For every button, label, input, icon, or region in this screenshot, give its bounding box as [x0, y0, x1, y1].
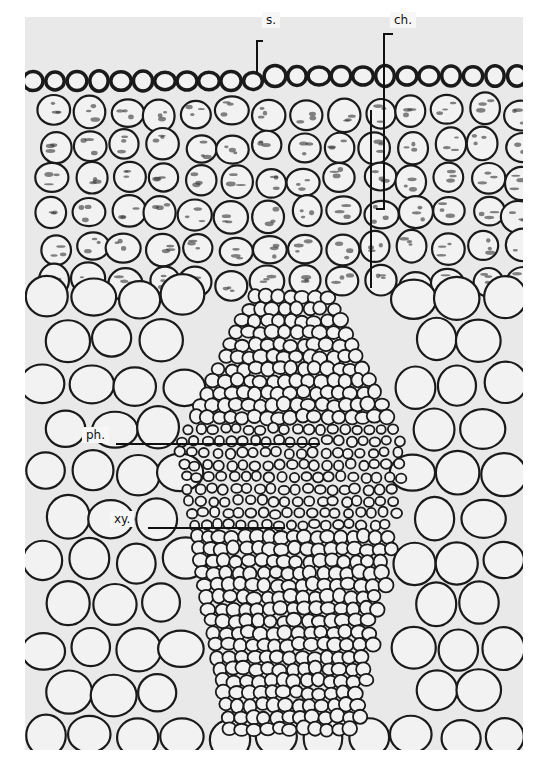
label-chlorenchyma: ch.: [390, 12, 416, 28]
leaf-cross-section-micrograph: [25, 17, 523, 750]
phloem-leader-line: [116, 443, 320, 445]
chlorenchyma-inner-line: [370, 110, 372, 288]
cell-layer: [25, 17, 523, 750]
chlorenchyma-bracket-foot: [376, 208, 385, 210]
label-phloem: ph.: [82, 427, 109, 443]
label-stoma: s.: [262, 12, 280, 28]
xylem-leader-line: [148, 527, 285, 529]
stoma-bracket-line: [256, 40, 258, 73]
label-xylem: xy.: [110, 511, 134, 527]
chlorenchyma-bracket-line: [383, 33, 385, 208]
